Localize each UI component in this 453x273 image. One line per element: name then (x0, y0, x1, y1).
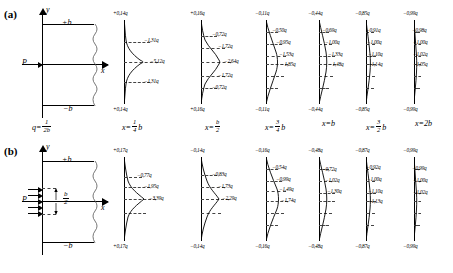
load-arrow-icon (38, 62, 43, 68)
bottom-value: −0,16q (255, 243, 270, 249)
bottom-edge-label: −b (63, 104, 72, 113)
top-value: −0,16q (255, 147, 270, 153)
panel-a: (a) y x +b −b P +0,14q −1,31q −5,12q −1,… (0, 0, 453, 136)
wavy-boundary-icon (91, 24, 99, 106)
load-label-P: P (22, 58, 27, 67)
value-1: −1,31q (144, 37, 159, 43)
bottom-value: +0,16q (190, 106, 205, 112)
value-2: −1,95q (144, 183, 159, 189)
top-value: +0,14q (113, 10, 128, 16)
value-3: −1,10q (368, 188, 383, 194)
x-axis-label: x (101, 66, 105, 75)
bottom-value: −0,87q (355, 243, 370, 249)
panel-b-body-diagram: y x +b −b P b 2 (22, 143, 108, 255)
bottom-value: −0,85q (355, 106, 370, 112)
bottom-value: −0,11q (255, 106, 269, 112)
stress-plot-a-3: −0,11q −0,50q −0,95q −1,53q −1,85q −0,11… (252, 6, 312, 118)
value-1: −0,92q (366, 164, 381, 170)
top-edge-label: +b (62, 18, 71, 27)
value-3: −1,02q (413, 51, 428, 57)
bottom-value: −0,48q (308, 243, 323, 249)
section-label-2: x= b 2 (205, 119, 221, 134)
bottom-value: −0,14q (190, 243, 205, 249)
value-3: −1,02q (413, 189, 428, 195)
value-3: −2,64q (224, 58, 239, 64)
dim-arrows-icon (52, 188, 60, 215)
value-2: −0,95q (276, 39, 291, 45)
value-3: −1,31q (144, 78, 159, 84)
value-4: −1,48q (329, 61, 344, 67)
value-4: −1,13q (368, 198, 383, 204)
dimension-b-over-2: b 2 (62, 191, 70, 207)
top-value: −0,85q (355, 10, 370, 16)
value-3: −1,33q (328, 51, 343, 57)
stress-plot-b-2: −0,14q −0,83q −1,73q −2,29q −0,14q (187, 143, 247, 255)
stress-plot-b-1: +0,17q −0,77q −1,95q −3,39q +0,17q (110, 143, 170, 255)
panel-a-body-diagram: y x +b −b P (22, 6, 108, 118)
section-label-1: x= 1 4 b (122, 119, 142, 134)
value-1: −0,99q (412, 165, 427, 171)
panel-b: (b) y x +b −b P (0, 137, 453, 273)
bottom-value: +0,17q (113, 243, 128, 249)
value-1: −0,54q (272, 164, 287, 170)
value-4: −1,74q (281, 197, 296, 203)
value-2: −1,00q (367, 176, 382, 182)
bottom-value: −0,44q (308, 106, 323, 112)
top-value: −0,14q (190, 147, 205, 153)
value-2: −1,02q (325, 177, 340, 183)
value-3: −1,53q (279, 51, 294, 57)
top-value: +0,17q (113, 147, 128, 153)
half-plane-body (42, 24, 94, 106)
value-2: −1,00q (413, 177, 428, 183)
value-3: −1,30q (327, 188, 342, 194)
value-1: −0,91q (366, 27, 381, 33)
top-value: +0,16q (190, 10, 205, 16)
top-value: −0,11q (255, 10, 269, 16)
load-label-P: P (22, 195, 27, 204)
value-2: −1,73q (218, 183, 233, 189)
value-4: −1,72q (218, 72, 233, 78)
section-label-3: x= 3 4 b (265, 119, 285, 134)
section-label-6: x=2b (415, 119, 432, 128)
value-1: −0,77q (137, 172, 152, 178)
top-value: −0,44q (308, 10, 323, 16)
q-definition: q= 1 2b (32, 119, 52, 134)
top-edge-label: +b (62, 155, 71, 164)
value-1: −0,98q (412, 27, 427, 33)
panel-a-label: (a) (4, 8, 17, 20)
value-1: −0,72q (322, 166, 337, 172)
value-3: −3,39q (149, 195, 164, 201)
value-1: −0,50q (272, 27, 287, 33)
bottom-value: −0,99q (403, 243, 418, 249)
value-2: −0,99q (276, 176, 291, 182)
stress-plot-b-3: −0,16q −0,54q −0,99q −1,49q −1,74q −0,16… (252, 143, 312, 255)
panel-b-label: (b) (4, 145, 17, 157)
value-2: −5,12q (150, 58, 165, 64)
y-axis-label: y (46, 142, 50, 151)
value-2: −1,00q (367, 39, 382, 45)
value-4: −1,14q (368, 61, 383, 67)
section-label-5: x= 3 2 b (366, 119, 386, 134)
value-2: −1,72q (218, 43, 233, 49)
value-2: −1,00q (413, 39, 428, 45)
section-label-4: x=b (322, 119, 335, 128)
bottom-edge-label: −b (63, 241, 72, 250)
top-value: −0,87q (355, 147, 370, 153)
section-label-row: q= 1 2b x= 1 4 b x= b 2 x= 3 4 b x=b x= … (0, 118, 453, 136)
wavy-boundary-icon (91, 161, 99, 243)
value-4: −1,05q (413, 61, 428, 67)
value-2: −1,00q (325, 39, 340, 45)
value-1: −0,83q (212, 171, 227, 177)
bottom-value: −0,99q (403, 106, 418, 112)
stress-plot-a-6: −0,99q −0,98q −1,00q −1,02q −1,05q −0,99… (400, 6, 453, 118)
top-value: −0,48q (308, 147, 323, 153)
y-axis-label: y (46, 5, 50, 14)
value-5: −0,72q (212, 84, 227, 90)
stress-plot-a-1: +0,14q −1,31q −5,12q −1,31q +0,14q (110, 6, 170, 118)
x-axis-label: x (101, 203, 105, 212)
top-value: −0,99q (403, 147, 418, 153)
bottom-value: +0,14q (113, 106, 128, 112)
value-1: −0,69q (322, 27, 337, 33)
value-3: −2,29q (222, 195, 237, 201)
stress-plot-b-6: −0,99q −0,99q −1,00q −1,02q −0,99q (400, 143, 453, 255)
